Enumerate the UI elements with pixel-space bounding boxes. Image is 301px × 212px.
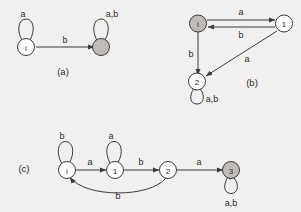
diagram-b: a b b a a,b i 1 2 (b) <box>188 7 292 104</box>
transition-label-c-loop-1: a <box>108 131 113 141</box>
state-c-1-label: 1 <box>113 167 118 176</box>
transition-label-c-2-3: a <box>196 157 201 167</box>
transition-c-loop-i <box>58 142 72 165</box>
transition-label-c-i-1: a <box>87 157 92 167</box>
transition-label-c-loop-3: a,b <box>225 198 238 208</box>
transition-c-loop-1 <box>107 142 121 165</box>
diagram-a: a b a,b i (a) <box>18 9 119 77</box>
automata-figure: a b a,b i (a) a b b a a,b i 1 <box>0 0 301 212</box>
state-b-i-label: i <box>197 20 199 29</box>
caption-a: (a) <box>57 66 69 77</box>
transition-label-a-b: b <box>62 35 67 45</box>
caption-b: (b) <box>246 77 258 88</box>
transition-label-b-top: a <box>238 7 243 17</box>
transition-label-b-back: b <box>238 30 243 40</box>
diagram-c: (c) b a a b a b a,b i 1 2 3 <box>18 131 239 208</box>
transition-label-a-loop-accept: a,b <box>106 9 119 19</box>
transition-label-c-loop-i: b <box>59 131 64 141</box>
state-b-1-label: 1 <box>282 20 287 29</box>
state-c-2-label: 2 <box>166 167 171 176</box>
state-c-i-label: i <box>66 167 68 176</box>
transition-label-b-loop-2: a,b <box>206 94 219 104</box>
transition-label-c-1-2: b <box>138 157 143 167</box>
state-c-3-label: 3 <box>229 167 234 176</box>
state-a-i-label: i <box>25 44 27 53</box>
automata-diagram-canvas: a b a,b i (a) a b b a a,b i 1 <box>0 0 301 212</box>
transition-label-c-back: b <box>115 191 120 201</box>
state-b-2-label: 2 <box>195 78 200 87</box>
transition-label-b-diag: a <box>244 54 249 64</box>
transition-label-a-loop-i: a <box>20 9 25 19</box>
state-a-accepting <box>93 39 110 56</box>
transition-label-b-down: b <box>188 49 193 59</box>
caption-c: (c) <box>18 163 29 174</box>
